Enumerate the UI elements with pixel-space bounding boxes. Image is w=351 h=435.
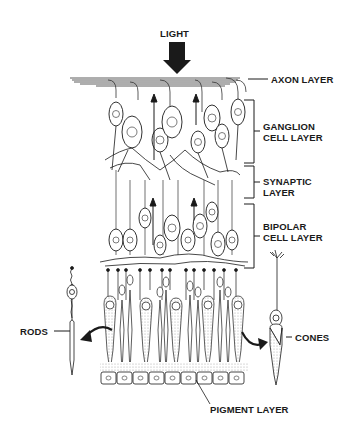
- pigment-layer: [100, 362, 248, 384]
- light-arrow-icon: [163, 42, 191, 74]
- photoreceptors: [104, 269, 244, 373]
- synaptic-label-line1: SYNAPTIC: [263, 176, 312, 187]
- rod-cell-body: [67, 267, 77, 376]
- curved-arrow-right-icon: [242, 332, 268, 350]
- layer-brackets: [244, 100, 260, 268]
- ganglion-cells: [109, 99, 245, 153]
- retina-diagram: [0, 0, 351, 435]
- rods-label: RODS: [20, 326, 48, 337]
- ganglion-label-line1: GANGLION: [263, 121, 315, 132]
- synaptic-label-line2: LAYER: [263, 187, 295, 198]
- bipolar-label-line1: BIPOLAR: [263, 221, 306, 232]
- axon-fibers: [70, 78, 246, 112]
- outer-plexiform: [100, 254, 248, 266]
- cone-cell-detail: [270, 250, 284, 385]
- bipolar-label-line2: CELL LAYER: [263, 232, 323, 243]
- bipolar-cells: [109, 202, 238, 256]
- axon-layer-label: AXON LAYER: [271, 74, 333, 85]
- pigment-layer-label: PIGMENT LAYER: [210, 404, 289, 415]
- cones-label: CONES: [295, 332, 329, 343]
- ganglion-label-line2: CELL LAYER: [263, 132, 323, 143]
- light-label: LIGHT: [160, 28, 189, 39]
